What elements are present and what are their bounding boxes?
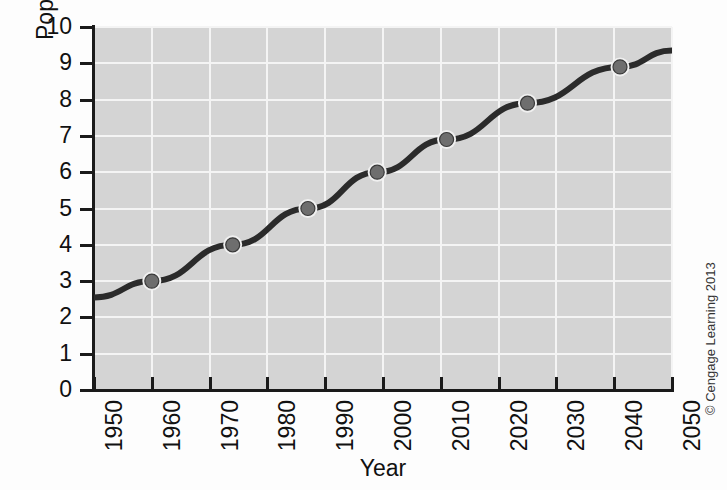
figure: 012345678910 195019601970198019902000201… bbox=[0, 0, 727, 490]
data-point-marker bbox=[440, 133, 454, 147]
y-tick-mark bbox=[80, 316, 94, 319]
x-tick-label: 2050 bbox=[681, 400, 704, 451]
y-tick-mark bbox=[80, 26, 94, 29]
x-tick-label: 1950 bbox=[103, 400, 126, 451]
data-point-marker bbox=[613, 60, 627, 74]
data-series-line bbox=[94, 27, 672, 390]
x-tick-label: 1960 bbox=[161, 400, 184, 451]
x-tick-label: 1990 bbox=[334, 400, 357, 451]
data-point-marker bbox=[301, 202, 315, 216]
x-tick-label: 2000 bbox=[392, 400, 415, 451]
x-tick-label: 1980 bbox=[276, 400, 299, 451]
y-axis-title: Population (billions) bbox=[32, 0, 59, 40]
x-tick-label: 1970 bbox=[219, 400, 242, 451]
data-point-marker bbox=[226, 238, 240, 252]
y-tick-mark bbox=[80, 244, 94, 247]
x-tick-label: 2020 bbox=[508, 400, 531, 451]
copyright-notice: © Cengage Learning 2013 bbox=[703, 262, 718, 415]
data-point-marker bbox=[145, 274, 159, 288]
copyright-wrap: © Cengage Learning 2013 bbox=[703, 185, 723, 415]
x-tick-label: 2010 bbox=[450, 400, 473, 451]
y-tick-mark bbox=[80, 280, 94, 283]
y-tick-mark bbox=[80, 171, 94, 174]
y-tick-mark bbox=[80, 135, 94, 138]
y-tick-mark bbox=[80, 389, 94, 392]
data-point-marker bbox=[521, 96, 535, 110]
data-point-marker bbox=[370, 165, 384, 179]
y-axis-title-wrap: Population (billions) bbox=[32, 40, 62, 370]
x-tick-label: 2030 bbox=[565, 400, 588, 451]
x-tick-label: 2040 bbox=[623, 400, 646, 451]
x-axis-title: Year bbox=[94, 455, 672, 482]
y-tick-mark bbox=[80, 62, 94, 65]
y-tick-mark bbox=[80, 99, 94, 102]
y-tick-mark bbox=[80, 353, 94, 356]
y-tick-mark bbox=[80, 208, 94, 211]
y-tick-label: 0 bbox=[32, 378, 72, 401]
